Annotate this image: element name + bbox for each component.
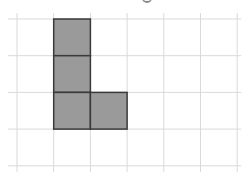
shape-cell (54, 92, 91, 129)
shape-cell (90, 92, 127, 129)
shape-cell (54, 56, 91, 93)
shape-cell (54, 19, 91, 56)
grid-diagram (0, 0, 245, 183)
l-tetromino-shape (54, 19, 127, 129)
